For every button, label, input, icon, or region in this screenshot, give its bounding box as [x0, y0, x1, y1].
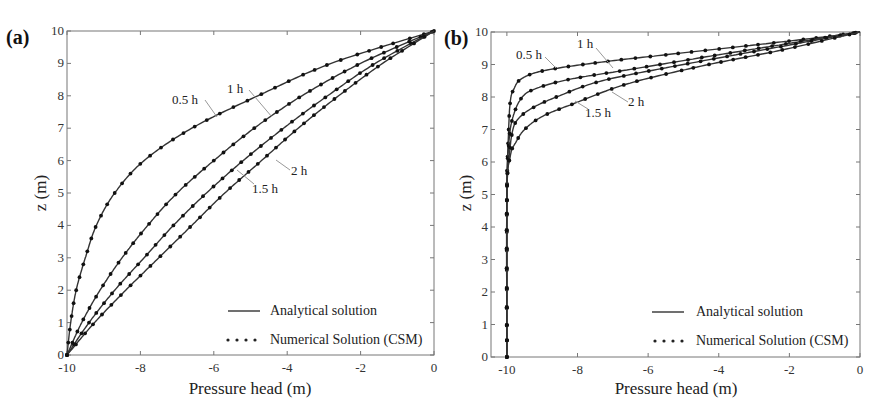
numerical-point: [335, 87, 339, 91]
numerical-point: [592, 73, 596, 77]
numerical-point: [139, 274, 143, 278]
figure: (a) 012345678910-10-8-6-4-20 Pressure he…: [0, 0, 886, 420]
numerical-point: [505, 305, 509, 309]
numerical-point: [331, 76, 335, 80]
numerical-point: [809, 39, 813, 43]
numerical-point: [529, 89, 533, 93]
numerical-point: [367, 49, 371, 53]
numerical-point: [212, 159, 216, 163]
numerical-point: [118, 282, 122, 286]
numerical-point: [648, 55, 652, 59]
numerical-point: [259, 92, 263, 96]
numerical-point: [119, 293, 123, 297]
numerical-point: [308, 89, 312, 93]
x-tick-label: 0: [857, 362, 864, 377]
numerical-point: [545, 112, 549, 116]
numerical-point: [78, 275, 82, 279]
numerical-point: [787, 39, 791, 43]
y-tick-label: 7: [482, 122, 489, 137]
numerical-point: [676, 52, 680, 56]
numerical-point: [739, 52, 743, 56]
y-tick-label: 5: [58, 185, 65, 200]
numerical-point: [540, 69, 544, 73]
y-tick-label: 4: [482, 219, 489, 234]
numerical-point: [514, 107, 518, 111]
numerical-point: [275, 110, 279, 114]
numerical-point: [712, 57, 716, 61]
annotation-1h-a: 1 h: [227, 81, 244, 96]
numerical-point: [389, 56, 393, 60]
legend-numerical-b: Numerical Solution (CSM): [696, 333, 849, 349]
numerical-point: [567, 65, 571, 69]
numerical-point: [516, 136, 520, 140]
axis-ticks-a: 012345678910-10-8-6-4-20: [51, 23, 437, 375]
numerical-point: [124, 251, 128, 255]
numerical-point: [542, 84, 546, 88]
numerical-point: [239, 160, 243, 164]
numerical-point: [131, 241, 135, 245]
numerical-point: [505, 184, 509, 188]
numerical-point: [81, 318, 85, 322]
numerical-point: [72, 301, 76, 305]
numerical-point: [554, 81, 558, 85]
numerical-point: [94, 295, 98, 299]
panel-label-b: (b): [444, 27, 468, 50]
legend-numerical-a: Numerical Solution (CSM): [270, 332, 423, 348]
numerical-point: [80, 331, 84, 335]
numerical-point: [100, 313, 104, 317]
numerical-point: [171, 138, 175, 142]
numerical-point: [707, 63, 711, 67]
numerical-point: [109, 272, 113, 276]
legend-a: Analytical solution Numerical Solution (…: [226, 303, 422, 348]
numerical-point: [645, 65, 649, 69]
numerical-point: [728, 51, 732, 55]
numerical-point: [312, 113, 316, 117]
x-axis-label-b: Pressure head (m): [615, 379, 738, 398]
numerical-point: [524, 126, 528, 130]
analytical-curve: [507, 32, 860, 357]
y-tick-label: 10: [475, 24, 488, 39]
numerical-point: [382, 51, 386, 55]
numerical-point: [543, 100, 547, 104]
numerical-point: [188, 225, 192, 229]
numerical-point: [379, 45, 383, 49]
numerical-point: [355, 53, 359, 57]
numerical-point: [605, 71, 609, 75]
numerical-point: [297, 96, 301, 100]
legend-analytical-a: Analytical solution: [270, 303, 377, 318]
numerical-point: [382, 56, 386, 60]
numerical-point: [273, 86, 277, 90]
plot-frame-b: [491, 32, 860, 357]
analytical-curve: [507, 32, 860, 357]
numerical-point: [743, 49, 747, 53]
numerical-point: [510, 147, 514, 151]
numerical-point: [302, 121, 306, 125]
legend-dots-sample-b: [653, 339, 683, 342]
x-tick-label: -6: [643, 362, 654, 377]
numerical-point: [647, 69, 651, 73]
plot-frame-a: [67, 31, 434, 355]
numerical-point: [164, 202, 168, 206]
numerical-point: [521, 112, 525, 116]
numerical-point: [89, 237, 93, 241]
numerical-point: [505, 266, 509, 270]
y-tick-label: 3: [482, 252, 489, 267]
numerical-point: [594, 81, 598, 85]
numerical-point: [519, 97, 523, 101]
numerical-point: [596, 92, 600, 96]
numerical-point: [193, 175, 197, 179]
numerical-point: [680, 69, 684, 73]
numerical-point: [554, 95, 558, 99]
y-tick-label: 1: [482, 317, 489, 332]
numerical-point: [365, 73, 369, 77]
analytical-curve: [67, 31, 434, 355]
numerical-point: [249, 152, 253, 156]
numerical-point: [312, 104, 316, 108]
numerical-point: [293, 130, 297, 134]
numerical-point: [101, 283, 105, 287]
numerical-point: [339, 58, 343, 62]
numerical-point: [193, 125, 197, 129]
numerical-point: [510, 133, 514, 137]
numerical-point: [301, 73, 305, 77]
curves-b: [505, 31, 860, 359]
